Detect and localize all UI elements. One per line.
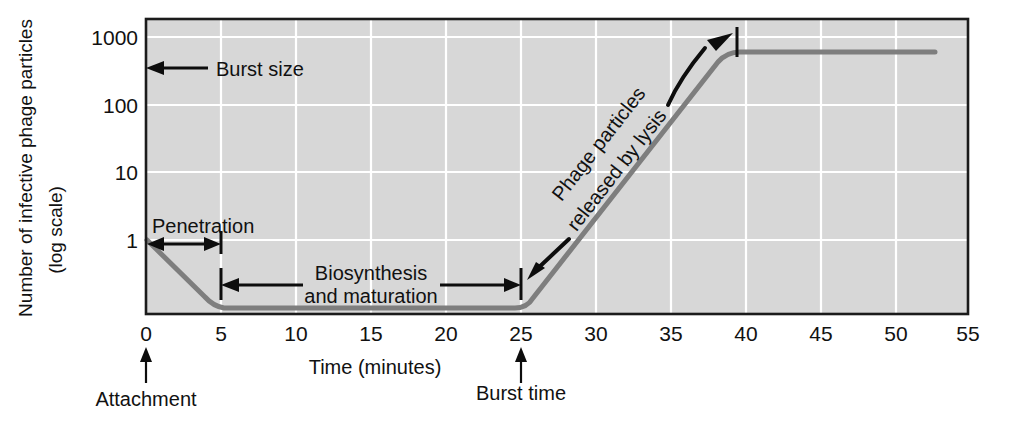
xtick-5: 5 (215, 322, 227, 345)
biosynthesis-label-line2: and maturation (304, 285, 437, 307)
x-axis-ticks: 0 5 10 15 20 25 30 35 40 45 50 55 (140, 322, 980, 345)
biosynthesis-label-line1: Biosynthesis (315, 262, 427, 284)
xtick-0: 0 (140, 322, 152, 345)
y-axis-title: Number of infective phage particles (15, 19, 36, 317)
penetration-label: Penetration (152, 215, 254, 237)
annotation-burst-time: Burst time (476, 347, 566, 404)
ytick-100: 100 (103, 94, 138, 117)
y-axis-title-line2: (log scale) (45, 186, 66, 274)
x-axis-title: Time (minutes) (309, 356, 442, 378)
xtick-55: 55 (956, 322, 979, 345)
attachment-arrow-up-icon (140, 347, 152, 362)
attachment-label: Attachment (95, 388, 197, 410)
xtick-10: 10 (284, 322, 307, 345)
burst-size-label: Burst size (216, 58, 304, 80)
xtick-45: 45 (809, 322, 832, 345)
xtick-50: 50 (884, 322, 907, 345)
xtick-20: 20 (434, 322, 457, 345)
xtick-35: 35 (659, 322, 682, 345)
phage-growth-curve-figure: 1000 100 10 1 0 5 10 15 20 25 30 35 40 4… (0, 0, 1030, 427)
xtick-40: 40 (734, 322, 757, 345)
y-axis-ticks: 1000 100 10 1 (91, 26, 138, 252)
burst-time-label: Burst time (476, 382, 566, 404)
annotation-attachment: Attachment (95, 347, 197, 410)
chart-canvas: 1000 100 10 1 0 5 10 15 20 25 30 35 40 4… (0, 0, 1030, 427)
ytick-1000: 1000 (91, 26, 138, 49)
xtick-25: 25 (509, 322, 532, 345)
burst-time-arrow-up-icon (515, 347, 527, 362)
ytick-10: 10 (115, 161, 138, 184)
xtick-15: 15 (359, 322, 382, 345)
ytick-1: 1 (126, 229, 138, 252)
xtick-30: 30 (584, 322, 607, 345)
